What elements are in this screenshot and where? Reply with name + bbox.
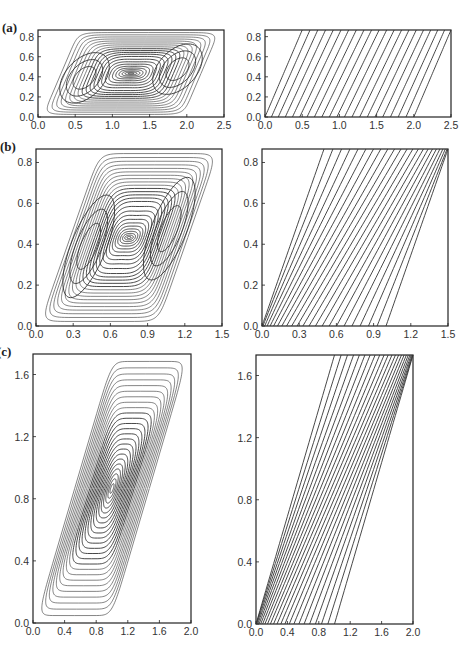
y-tick-label: 0.0 <box>17 320 32 332</box>
streamline <box>128 73 134 74</box>
streamline <box>108 479 116 498</box>
panel-b-streamlines: 0.00.30.60.91.21.50.00.20.40.60.8(b) <box>0 139 229 340</box>
eddy-contour <box>166 58 189 81</box>
panel-label: (a) <box>2 20 17 35</box>
x-tick-label: 1.2 <box>343 626 358 638</box>
streamline <box>106 215 151 259</box>
isotherm <box>278 30 318 117</box>
y-tick-label: 0.4 <box>19 71 34 83</box>
y-tick-label: 1.6 <box>237 370 252 382</box>
panel-a-streamlines: 0.00.51.01.52.02.50.00.20.40.60.8(a) <box>2 20 231 131</box>
x-tick-label: 1.5 <box>441 328 456 340</box>
x-tick-label: 0.9 <box>140 328 155 340</box>
x-tick-label: 1.0 <box>332 119 347 131</box>
x-tick-label: 1.5 <box>142 119 157 131</box>
y-tick-label: 0.8 <box>17 156 32 168</box>
streamline <box>115 226 143 249</box>
streamline <box>69 175 189 299</box>
y-tick-label: 0.4 <box>237 556 252 568</box>
streamline <box>46 368 179 609</box>
isotherm <box>277 355 392 624</box>
x-tick-label: 1.2 <box>403 328 418 340</box>
y-tick-label: 0.0 <box>237 618 252 630</box>
streamline <box>60 391 165 586</box>
x-tick-label: 2.0 <box>406 626 421 638</box>
x-tick-label: 2.0 <box>179 119 194 131</box>
x-tick-label: 0.8 <box>311 626 326 638</box>
y-tick-label: 0.8 <box>19 31 34 43</box>
y-tick-label: 1.2 <box>237 432 252 444</box>
x-tick-label: 1.6 <box>374 626 389 638</box>
y-tick-label: 1.6 <box>14 369 29 381</box>
isotherm <box>263 355 370 624</box>
x-tick-label: 1.2 <box>177 328 192 340</box>
isotherm <box>281 355 396 624</box>
y-tick-label: 0.8 <box>14 493 29 505</box>
isotherm <box>377 149 447 326</box>
y-tick-label: 0.0 <box>19 111 34 123</box>
y-tick-label: 1.2 <box>14 431 29 443</box>
y-tick-label: 0.8 <box>246 31 261 43</box>
isotherm <box>303 149 407 326</box>
y-tick-label: 0.4 <box>243 238 258 250</box>
streamline <box>72 179 185 297</box>
y-tick-label: 0.4 <box>17 238 32 250</box>
streamline <box>54 161 204 314</box>
isotherm <box>352 149 440 326</box>
figure: 0.00.51.01.52.02.50.00.20.40.60.8(a)0.00… <box>0 0 459 650</box>
streamline <box>58 165 201 310</box>
x-tick-label: 1.5 <box>369 119 384 131</box>
x-tick-label: 1.5 <box>215 328 230 340</box>
x-tick-label: 0.4 <box>280 626 295 638</box>
isotherm <box>309 149 413 326</box>
isotherm <box>310 355 410 624</box>
x-tick-label: 0.5 <box>295 119 310 131</box>
isotherm <box>274 149 366 326</box>
streamline <box>49 374 174 603</box>
y-tick-label: 0.8 <box>237 494 252 506</box>
panel-c-streamlines: 0.00.40.81.21.62.00.00.40.81.21.6(c) <box>0 344 198 637</box>
y-tick-label: 0.6 <box>246 51 261 63</box>
panel-b-isotherms: 0.00.30.60.91.21.50.00.20.40.60.8 <box>243 149 455 340</box>
x-tick-label: 0.9 <box>366 328 381 340</box>
streamline <box>96 454 128 523</box>
x-tick-label: 2.5 <box>444 119 459 131</box>
isotherm <box>368 149 445 326</box>
y-tick-label: 0.4 <box>14 555 29 567</box>
y-tick-label: 0.2 <box>19 91 34 103</box>
eddy-contour <box>73 67 96 90</box>
y-tick-label: 0.0 <box>246 111 261 123</box>
x-tick-label: 0.4 <box>57 625 72 637</box>
y-tick-label: 0.2 <box>243 279 258 291</box>
isotherm <box>335 355 414 624</box>
y-tick-label: 0.2 <box>246 91 261 103</box>
y-tick-label: 0.8 <box>243 156 258 168</box>
isotherm <box>299 355 406 624</box>
x-tick-label: 1.6 <box>152 625 167 637</box>
isotherm <box>262 149 324 326</box>
y-tick-label: 0.6 <box>17 197 32 209</box>
y-tick-label: 0.0 <box>14 617 29 629</box>
isotherm <box>271 30 310 117</box>
isotherm <box>297 149 401 326</box>
isotherm <box>256 355 341 624</box>
streamline <box>63 397 161 580</box>
isotherm <box>259 355 359 624</box>
x-tick-label: 0.5 <box>68 119 83 131</box>
panel-a-isotherms: 0.00.51.01.52.02.50.00.20.40.60.8 <box>246 30 458 131</box>
x-tick-label: 2.0 <box>406 119 421 131</box>
isotherm <box>274 355 389 624</box>
x-tick-label: 0.6 <box>103 328 118 340</box>
y-tick-label: 0.6 <box>243 197 258 209</box>
x-tick-label: 2.0 <box>184 625 199 637</box>
x-tick-label: 0.8 <box>89 625 104 637</box>
panel-label: (c) <box>0 344 11 359</box>
isotherm <box>270 149 358 326</box>
streamline <box>53 380 171 597</box>
isotherm <box>414 30 451 117</box>
isotherm <box>344 149 436 326</box>
streamline <box>99 459 125 518</box>
isotherm <box>328 355 413 624</box>
x-tick-label: 1.2 <box>120 625 135 637</box>
streamline <box>78 47 184 100</box>
